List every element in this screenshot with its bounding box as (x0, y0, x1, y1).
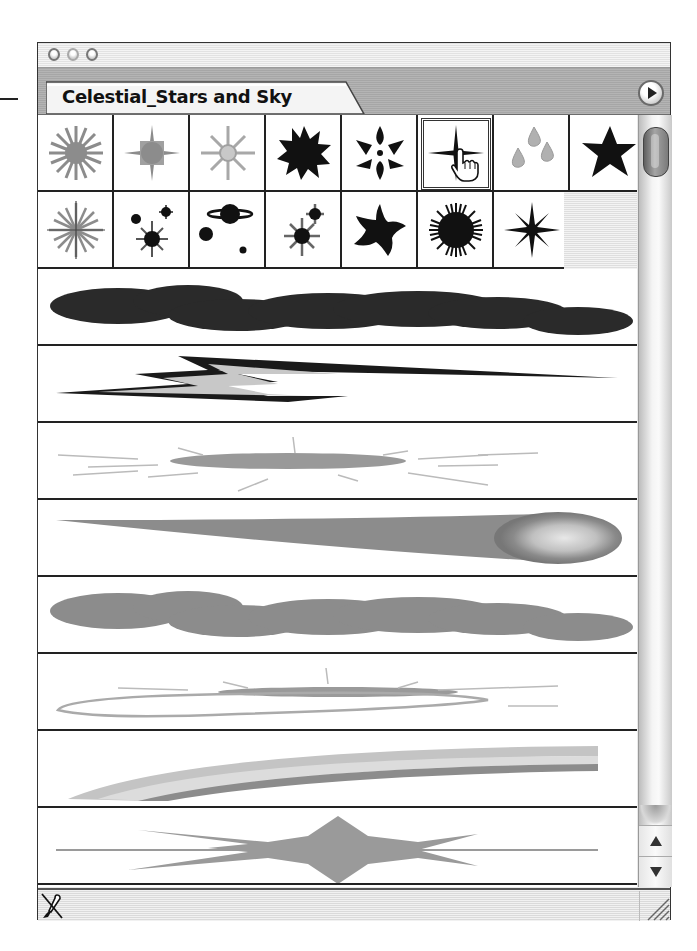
double-star-icon (273, 199, 335, 261)
zoom-button[interactable] (86, 48, 98, 61)
brush-rainbow-arc[interactable] (38, 731, 637, 808)
burst-star-icon (273, 122, 335, 184)
brush-black-twelve-point-star[interactable] (266, 115, 342, 192)
tab-celestial-stars-and-sky[interactable]: Celestial_Stars and Sky (46, 80, 386, 114)
brush-lightning-bolt[interactable] (38, 346, 637, 423)
scroll-track-end (639, 805, 672, 825)
brush-gray-cloud[interactable] (38, 577, 637, 654)
title-bar[interactable] (38, 43, 670, 68)
tab-label: Celestial_Stars and Sky (62, 86, 292, 107)
star-cluster-icon (121, 199, 183, 261)
brush-gray-four-point-glow-star[interactable] (114, 115, 190, 192)
brush-gray-nebula-streaks[interactable] (38, 423, 637, 500)
planets-icon (197, 199, 259, 261)
brushes-panel-window: Celestial_Stars and Sky (37, 42, 671, 920)
flower-star-icon (349, 122, 411, 184)
scroll-up-button[interactable] (639, 825, 672, 856)
spiky-sun-icon (425, 199, 487, 261)
brush-dark-cloud[interactable] (38, 269, 637, 346)
lightning-stroke-icon (38, 346, 637, 421)
brush-galaxy-ring[interactable] (38, 654, 637, 731)
cloud-stroke-icon (38, 269, 637, 344)
droplets-icon (501, 122, 563, 184)
resize-grip[interactable] (639, 891, 670, 921)
rainbow-stroke-icon (38, 731, 637, 806)
compass-star-icon (45, 199, 107, 261)
scatter-brush-grid (38, 115, 637, 269)
brush-light-gray-eight-point-star[interactable] (190, 115, 266, 192)
brush-comet[interactable] (38, 500, 637, 577)
brush-black-double-star-burst[interactable] (266, 192, 342, 269)
sunburst-icon (45, 122, 107, 184)
nebula-stroke-icon (38, 423, 637, 498)
comet-stroke-icon (38, 500, 637, 575)
arrow-down-icon (650, 867, 662, 877)
brush-list (38, 115, 637, 887)
brush-black-spiky-sun[interactable] (418, 192, 494, 269)
four-point-glow-icon (121, 122, 183, 184)
vertical-scrollbar[interactable] (638, 115, 672, 887)
brush-black-planets[interactable] (190, 192, 266, 269)
brush-gray-sunburst-star[interactable] (38, 115, 114, 192)
star-icon (577, 122, 637, 184)
brush-black-star-cluster[interactable] (114, 192, 190, 269)
brush-black-five-point-star[interactable] (570, 115, 637, 192)
remove-brush-stroke-icon (40, 892, 66, 920)
cloud-stroke-icon (38, 577, 637, 652)
eight-point-star-icon (197, 122, 259, 184)
brush-black-flower-star[interactable] (342, 115, 418, 192)
tab-bar: Celestial_Stars and Sky (38, 68, 670, 115)
callout-line (0, 98, 18, 100)
brush-black-eight-point-sparkle[interactable] (494, 192, 570, 269)
brush-black-four-point-sparkle[interactable] (418, 115, 494, 192)
hand-cursor-icon (450, 147, 480, 183)
panel-menu-button[interactable] (638, 80, 664, 106)
scroll-thumb[interactable] (643, 127, 669, 177)
arrow-up-icon (650, 836, 662, 846)
eight-point-sparkle-icon (501, 199, 563, 261)
resize-grip-icon (640, 891, 670, 921)
starburst-stroke-icon (38, 808, 637, 883)
brush-starburst-stroke[interactable] (38, 808, 637, 885)
close-button[interactable] (48, 48, 60, 61)
galaxy-stroke-icon (38, 654, 637, 729)
brush-gray-compass-starburst[interactable] (38, 192, 114, 269)
brush-gray-droplets[interactable] (494, 115, 570, 192)
scroll-down-button[interactable] (639, 856, 672, 887)
minimize-button[interactable] (67, 48, 79, 61)
panel-bottom-bar (38, 888, 670, 921)
curved-star-icon (349, 199, 411, 261)
empty-grid-area (564, 192, 637, 269)
remove-brush-stroke-button[interactable] (40, 892, 66, 920)
brush-black-curved-star[interactable] (342, 192, 418, 269)
